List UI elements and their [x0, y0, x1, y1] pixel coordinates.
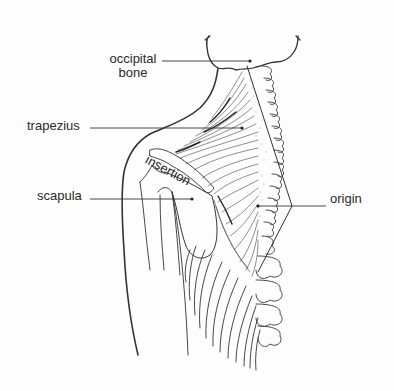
label-occipital-line2: bone	[105, 66, 161, 80]
label-occipital-bone: occipital bone	[105, 52, 161, 80]
label-scapula: scapula	[37, 189, 82, 203]
label-origin: origin	[330, 192, 362, 206]
body-contour	[122, 68, 218, 355]
label-trapezius: trapezius	[27, 119, 80, 133]
label-occipital-line1: occipital	[105, 52, 161, 66]
trapezius-medial-border	[247, 66, 292, 272]
trapezius-diagram: occipital bone trapezius scapula origin …	[0, 0, 394, 391]
skull-outline	[207, 36, 298, 70]
